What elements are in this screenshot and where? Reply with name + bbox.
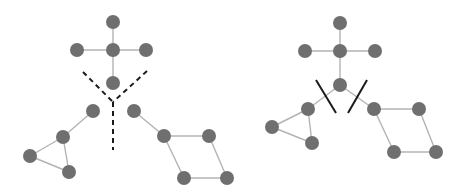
graph-node — [62, 165, 76, 179]
graph-node — [70, 43, 84, 57]
graph-node — [429, 145, 443, 159]
graph-node — [127, 104, 141, 118]
graph-node — [23, 149, 37, 163]
graph-node — [412, 102, 426, 116]
graph-edge — [374, 109, 394, 152]
graph-node — [106, 15, 120, 29]
solid-cut-line — [316, 80, 336, 113]
left-nodes — [23, 15, 234, 185]
graph-node — [387, 145, 401, 159]
right-edges — [272, 23, 436, 152]
right-nodes — [265, 16, 443, 159]
graph-node — [202, 129, 216, 143]
graph-node — [333, 44, 347, 58]
graph-node — [106, 76, 120, 90]
graph-node — [157, 129, 171, 143]
graph-node — [301, 102, 315, 116]
graph-node — [106, 43, 120, 57]
graph-node — [298, 44, 312, 58]
graph-cut-diagram — [0, 0, 466, 194]
graph-node — [177, 171, 191, 185]
left-panel-separated-graph — [23, 15, 234, 185]
graph-node — [333, 16, 347, 30]
graph-node — [265, 120, 279, 134]
graph-node — [220, 171, 234, 185]
graph-node — [333, 78, 347, 92]
graph-node — [139, 43, 153, 57]
graph-node — [305, 136, 319, 150]
solid-cut-line — [348, 80, 367, 113]
graph-node — [368, 44, 382, 58]
left-edges — [30, 22, 227, 178]
graph-node — [367, 102, 381, 116]
graph-node — [86, 104, 100, 118]
graph-node — [56, 130, 70, 144]
right-panel-cut-graph — [265, 16, 443, 159]
